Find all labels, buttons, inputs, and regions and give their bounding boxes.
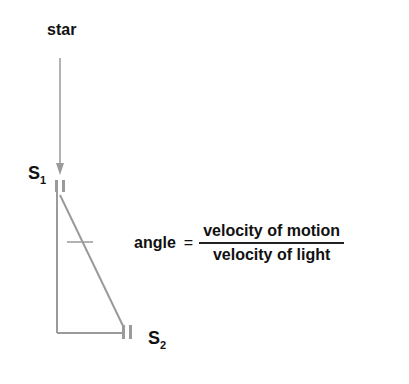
slit-s1-left	[55, 180, 58, 192]
star-label: star	[47, 21, 76, 39]
s2-main: S	[148, 328, 160, 348]
slit-s1-right	[62, 180, 65, 192]
telescope-aberration-diagram	[0, 0, 409, 384]
formula-fraction: velocity of motion velocity of light	[199, 222, 344, 264]
s2-sub: 2	[160, 339, 166, 351]
formula-lhs: angle	[134, 234, 176, 252]
formula-equals: =	[184, 234, 193, 252]
s1-label: S1	[28, 163, 46, 186]
formula-numerator: velocity of motion	[199, 222, 344, 244]
slit-s2-left	[122, 325, 125, 339]
s1-sub: 1	[40, 174, 46, 186]
aberration-formula: angle = velocity of motion velocity of l…	[134, 222, 344, 264]
s2-label: S2	[148, 328, 166, 351]
formula-denominator: velocity of light	[213, 244, 330, 264]
slit-s2-right	[129, 325, 132, 339]
arrow-down-icon	[56, 163, 64, 175]
s1-main: S	[28, 163, 40, 183]
slanted-ray	[60, 195, 124, 328]
